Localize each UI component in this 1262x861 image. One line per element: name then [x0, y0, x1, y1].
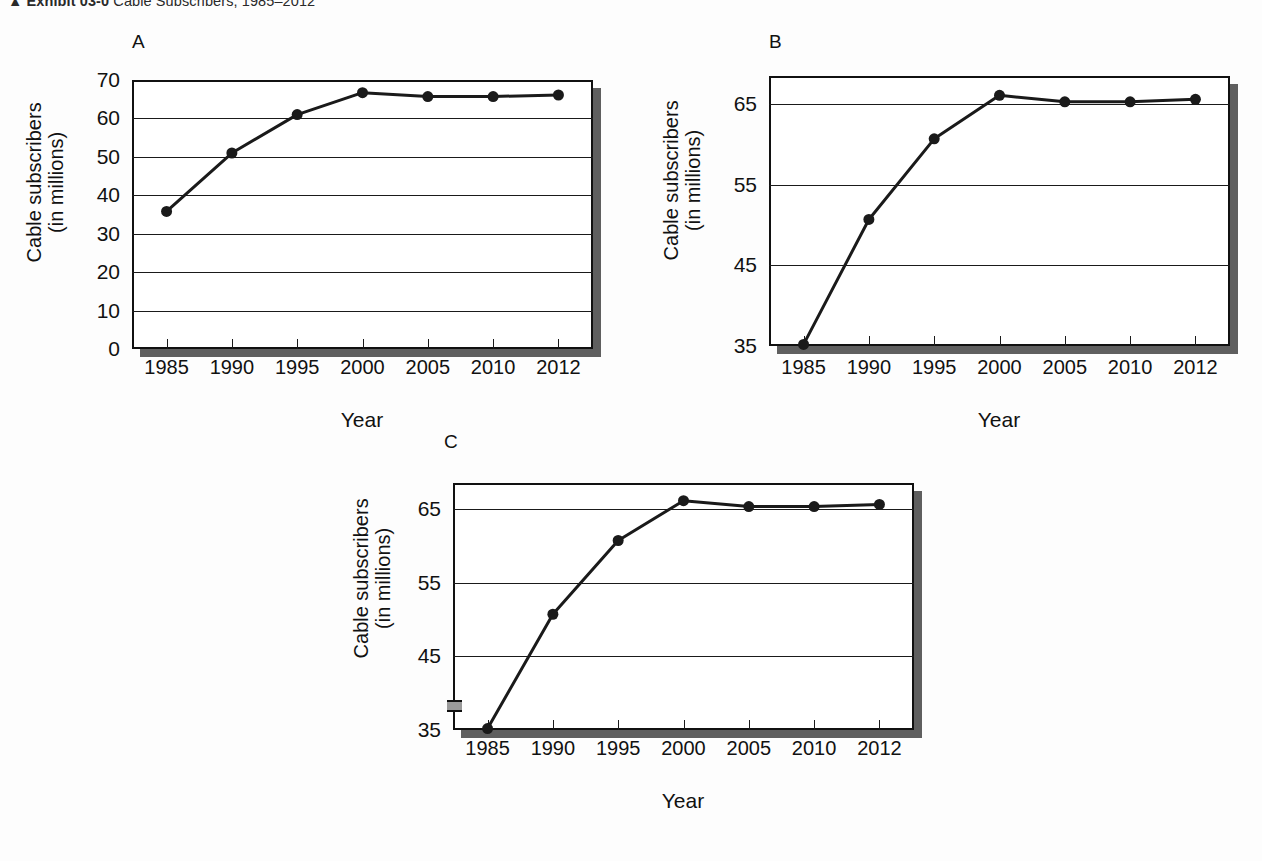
caption-title: Cable Subscribers, 1985–2012 — [113, 0, 315, 9]
data-point-marker — [809, 501, 820, 512]
plot-area-b — [769, 76, 1229, 345]
data-point-marker — [1059, 96, 1070, 107]
data-point-marker — [1125, 96, 1136, 107]
panel-letter-c: C — [444, 432, 458, 451]
data-point-marker — [874, 499, 885, 510]
series-line — [488, 501, 880, 729]
data-point-marker — [678, 495, 689, 506]
data-point-marker — [292, 109, 303, 120]
data-point-marker — [994, 90, 1005, 101]
data-point-marker — [863, 214, 874, 225]
data-point-marker — [422, 91, 433, 102]
y-tick-label: 30 — [36, 223, 120, 244]
data-point-marker — [547, 609, 558, 620]
series-line — [804, 95, 1196, 344]
y-tick-label: 65 — [673, 93, 757, 114]
data-point-marker — [743, 501, 754, 512]
axis-break-symbol-c — [447, 700, 462, 712]
data-series-c — [453, 483, 914, 730]
y-tick-label: 55 — [673, 174, 757, 195]
plot-shadow-bottom-b — [777, 345, 1237, 354]
panel-letter-a: A — [132, 32, 145, 51]
data-point-marker — [613, 535, 624, 546]
x-axis-title-c: Year — [553, 790, 813, 811]
y-tick-label: 50 — [36, 146, 120, 167]
data-series-b — [769, 76, 1230, 346]
data-point-marker — [226, 148, 237, 159]
panel-letter-b: B — [769, 32, 782, 51]
x-tick-label: 2012 — [1155, 357, 1235, 377]
series-line — [167, 93, 559, 212]
plot-shadow-right-c — [913, 491, 922, 738]
y-tick-label: 0 — [36, 338, 120, 359]
x-tick-label: 2012 — [518, 357, 598, 377]
data-point-marker — [482, 723, 493, 734]
data-series-a — [132, 80, 593, 349]
y-tick-label: 35 — [673, 335, 757, 356]
figure-canvas: ▲ Exhibit 03-0 Cable Subscribers, 1985–2… — [0, 0, 1262, 861]
plot-shadow-right-b — [1229, 84, 1238, 354]
y-tick-label: 10 — [36, 300, 120, 321]
y-tick-label: 20 — [36, 261, 120, 282]
data-point-marker — [488, 91, 499, 102]
data-point-marker — [357, 87, 368, 98]
data-point-marker — [161, 206, 172, 217]
data-point-marker — [553, 89, 564, 100]
plot-shadow-right-a — [592, 88, 601, 357]
x-tick-label: 2012 — [839, 738, 919, 758]
y-tick-label: 35 — [357, 719, 441, 740]
y-tick-label: 40 — [36, 184, 120, 205]
y-tick-label: 70 — [36, 69, 120, 90]
data-point-marker — [798, 339, 809, 350]
x-axis-title-b: Year — [869, 409, 1129, 430]
y-tick-label: 65 — [357, 498, 441, 519]
y-tick-label: 45 — [673, 254, 757, 275]
y-tick-label: 60 — [36, 107, 120, 128]
y-tick-label: 55 — [357, 572, 441, 593]
data-point-marker — [1190, 94, 1201, 105]
caption-exhibit-number: Exhibit 03-0 — [27, 0, 110, 9]
plot-area-a — [132, 80, 592, 348]
figure-caption: ▲ Exhibit 03-0 Cable Subscribers, 1985–2… — [8, 0, 708, 9]
plot-area-c — [453, 483, 913, 729]
caption-marker: ▲ — [8, 0, 22, 9]
data-point-marker — [929, 133, 940, 144]
y-tick-label: 45 — [357, 645, 441, 666]
x-axis-title-a: Year — [232, 409, 492, 430]
